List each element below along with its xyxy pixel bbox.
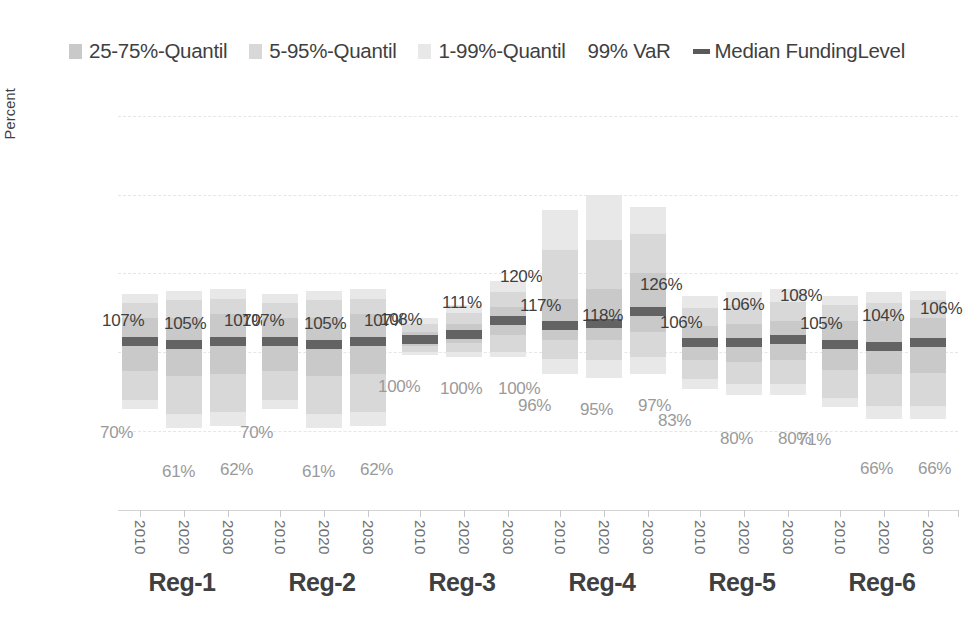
legend-item-5[interactable]: Median FundingLevel: [693, 39, 905, 63]
legend-item-3[interactable]: 1-99%-Quantil: [418, 39, 565, 63]
median-line: [262, 337, 298, 346]
var-value-label: 61%: [302, 462, 335, 482]
x-tick-label-reg-5-2020: 2020: [736, 520, 753, 555]
x-tick: [280, 510, 281, 517]
x-tick-label-reg-2-2030: 2030: [360, 520, 377, 555]
fan-bar-reg-6-2020[interactable]: 104%66%: [866, 100, 902, 510]
var-value-label: 100%: [440, 379, 482, 399]
fan-bar-reg-2-2010[interactable]: 107%70%: [262, 100, 298, 510]
legend-label-2: 5-95%-Quantil: [269, 39, 396, 63]
x-tick-label-reg-2-2010: 2010: [272, 520, 289, 555]
x-tick: [140, 510, 141, 517]
group-label-reg-2: Reg-2: [252, 568, 392, 597]
x-tick: [840, 510, 841, 517]
median-value-label: 120%: [500, 267, 542, 287]
fan-bar-reg-2-2020[interactable]: 105%61%: [306, 100, 342, 510]
fan-bar-reg-4-2030[interactable]: 126%97%: [630, 100, 666, 510]
group-label-reg-3: Reg-3: [392, 568, 532, 597]
median-line: [446, 330, 482, 339]
x-tick: [928, 510, 929, 517]
var-value-label: 96%: [518, 396, 551, 416]
x-tick: [648, 510, 649, 517]
median-line: [122, 337, 158, 346]
fan-bar-reg-1-2010[interactable]: 107%70%: [122, 100, 158, 510]
fan-bar-reg-2-2030[interactable]: 107%62%: [350, 100, 386, 510]
var-value-label: 70%: [240, 423, 273, 443]
x-tick-label-reg-6-2030: 2030: [920, 520, 937, 555]
x-tick: [744, 510, 745, 517]
var-value-label: 100%: [378, 377, 420, 397]
chart-legend: 25-75%-Quantil5-95%-Quantil1-99%-Quantil…: [0, 34, 974, 68]
var-value-label: 83%: [658, 411, 691, 431]
median-line: [166, 340, 202, 349]
fan-bar-reg-6-2010[interactable]: 105%71%: [822, 100, 858, 510]
median-value-label: 106%: [660, 313, 702, 333]
x-tick-label-reg-4-2020: 2020: [596, 520, 613, 555]
var-value-label: 95%: [580, 400, 613, 420]
x-tick: [884, 510, 885, 517]
x-tick-label-reg-4-2030: 2030: [640, 520, 657, 555]
x-tick-end: [958, 510, 959, 517]
median-value-label: 111%: [442, 293, 482, 313]
legend-item-1[interactable]: 25-75%-Quantil: [69, 39, 227, 63]
fan-bar-reg-3-2010[interactable]: 108%100%: [402, 100, 438, 510]
median-value-label: 108%: [780, 286, 822, 306]
median-line: [490, 316, 526, 325]
legend-line-median: [693, 49, 710, 54]
median-value-label: 108%: [380, 310, 422, 330]
legend-label-5: Median FundingLevel: [715, 39, 905, 63]
legend-label-3: 1-99%-Quantil: [438, 39, 565, 63]
legend-swatch-5-95: [249, 44, 262, 59]
x-tick-label-reg-6-2020: 2020: [876, 520, 893, 555]
fan-bar-reg-1-2030[interactable]: 107%62%: [210, 100, 246, 510]
median-line: [726, 338, 762, 347]
median-line: [350, 337, 386, 346]
median-line: [210, 337, 246, 346]
plot-area: 0.0%50.0%100.0%150.0%200.0%250.0%107%70%…: [118, 100, 958, 510]
legend-swatch-25-75: [69, 44, 82, 59]
x-tick: [464, 510, 465, 517]
median-value-label: 105%: [800, 314, 842, 334]
group-label-reg-5: Reg-5: [672, 568, 812, 597]
x-tick: [420, 510, 421, 517]
bar-group-reg-6: 105%71%104%66%106%66%: [818, 100, 958, 510]
x-axis-line: [118, 510, 958, 511]
legend-item-2[interactable]: 5-95%-Quantil: [249, 39, 396, 63]
group-label-reg-4: Reg-4: [532, 568, 672, 597]
var-value-label: 70%: [100, 423, 133, 443]
x-tick-label-reg-5-2010: 2010: [692, 520, 709, 555]
median-value-label: 118%: [582, 306, 623, 326]
median-value-label: 117%: [520, 296, 561, 316]
fan-bar-reg-4-2010[interactable]: 117%96%: [542, 100, 578, 510]
median-line: [910, 338, 946, 347]
median-line: [822, 340, 858, 349]
group-label-reg-6: Reg-6: [812, 568, 952, 597]
median-value-label: 105%: [304, 314, 346, 334]
x-tick: [560, 510, 561, 517]
legend-label-1: 25-75%-Quantil: [89, 39, 227, 63]
median-value-label: 107%: [242, 311, 284, 331]
fan-bar-reg-1-2020[interactable]: 105%61%: [166, 100, 202, 510]
x-tick-label-reg-1-2020: 2020: [176, 520, 193, 555]
legend-item-4[interactable]: 99% VaR: [588, 39, 671, 63]
group-label-reg-1: Reg-1: [112, 568, 252, 597]
fan-bar-reg-6-2030[interactable]: 106%66%: [910, 100, 946, 510]
var-value-label: 71%: [798, 430, 831, 450]
bar-group-reg-1: 107%70%105%61%107%62%: [118, 100, 258, 510]
bar-group-reg-2: 107%70%105%61%107%62%: [258, 100, 398, 510]
x-tick: [184, 510, 185, 517]
fan-bar-reg-5-2010[interactable]: 106%83%: [682, 100, 718, 510]
x-tick: [368, 510, 369, 517]
median-value-label: 104%: [862, 306, 904, 326]
bar-group-reg-5: 106%83%106%80%108%80%: [678, 100, 818, 510]
fan-bar-reg-5-2020[interactable]: 106%80%: [726, 100, 762, 510]
median-value-label: 107%: [102, 311, 144, 331]
var-value-label: 66%: [918, 459, 951, 479]
fan-bar-reg-4-2020[interactable]: 118%95%: [586, 100, 622, 510]
legend-swatch-1-99: [418, 44, 431, 59]
fan-bar-reg-3-2020[interactable]: 111%100%: [446, 100, 482, 510]
bar-group-reg-4: 117%96%118%95%126%97%: [538, 100, 678, 510]
bar-group-reg-3: 108%100%111%100%120%100%: [398, 100, 538, 510]
x-tick: [604, 510, 605, 517]
legend-label-4: 99% VaR: [588, 39, 671, 63]
